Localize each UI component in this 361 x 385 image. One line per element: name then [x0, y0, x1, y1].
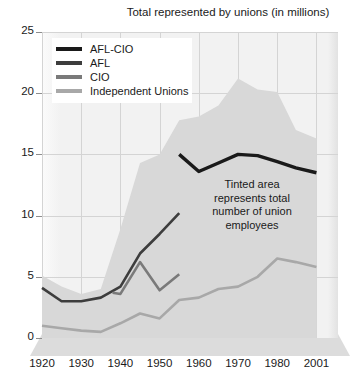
- y-axis-tick-mark: [36, 277, 42, 278]
- legend-swatch-afl: [56, 61, 82, 65]
- y-axis-tick-label: 25: [2, 24, 34, 36]
- legend-item-cio: CIO: [56, 70, 186, 84]
- legend-item-afl: AFL: [56, 56, 186, 70]
- legend-swatch-cio: [56, 75, 82, 79]
- union-membership-chart: Total represented by unions (in millions…: [0, 0, 361, 385]
- legend-label-cio: CIO: [90, 71, 110, 83]
- annotation-line-1: Tinted area: [193, 178, 311, 192]
- y-axis-tick-label: 15: [2, 146, 34, 158]
- legend-item-independent-unions: Independent Unions: [56, 84, 186, 98]
- legend-swatch-afl-cio: [56, 47, 82, 51]
- y-axis-tick-mark: [36, 338, 42, 339]
- y-axis-tick-label: 10: [2, 208, 34, 220]
- y-axis-tick-label: 5: [2, 269, 34, 281]
- legend-label-afl-cio: AFL-CIO: [90, 43, 133, 55]
- y-axis-tick-mark: [36, 216, 42, 217]
- legend-item-afl-cio: AFL-CIO: [56, 42, 186, 56]
- legend-swatch-independent-unions: [56, 89, 82, 93]
- annotation-line-3: number of union: [193, 205, 311, 219]
- y-axis-tick-mark: [36, 32, 42, 33]
- y-axis-tick-mark: [36, 154, 42, 155]
- y-axis-tick-label: 0: [2, 330, 34, 342]
- legend-label-afl: AFL: [90, 57, 110, 69]
- legend-label-independent-unions: Independent Unions: [90, 85, 188, 97]
- annotation-line-4: employees: [193, 219, 311, 233]
- chart-legend: AFL-CIO AFL CIO Independent Unions: [52, 38, 192, 103]
- annotation-line-2: represents total: [193, 192, 311, 206]
- x-axis-tick-label: 2001: [293, 357, 339, 369]
- y-axis-tick-label: 20: [2, 85, 34, 97]
- chart-title: Total represented by unions (in millions…: [103, 6, 353, 18]
- y-axis-tick-mark: [36, 93, 42, 94]
- tinted-area-annotation: Tinted area represents total number of u…: [193, 178, 311, 232]
